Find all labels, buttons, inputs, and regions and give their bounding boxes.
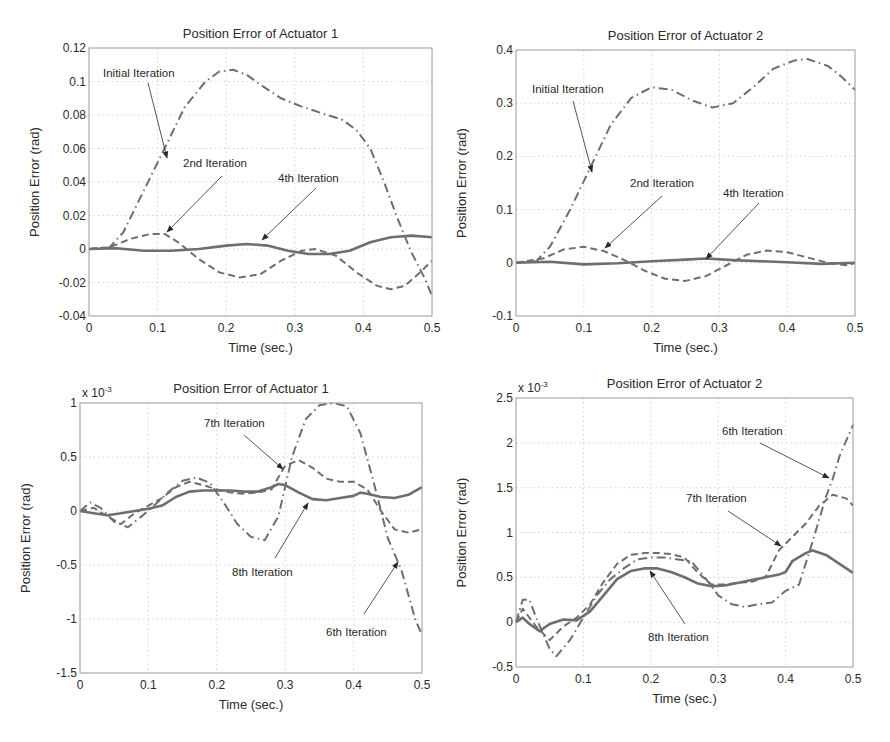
annotation-label: 2nd Iteration [183,157,247,169]
x-tick-label: 0 [513,321,520,335]
x-tick-label: 0 [513,672,520,686]
chart-title: Position Error of Actuator 2 [608,28,763,43]
annotations: Initial Iteration2nd Iteration4th Iterat… [532,83,784,259]
x-tick-label: 0.4 [779,321,796,335]
tick-labels: 00.10.20.30.40.5-0.04-0.0200.020.040.060… [59,41,441,335]
y-tick-label: 2 [506,436,513,450]
series-group [89,70,432,296]
chart-title: Position Error of Actuator 1 [183,26,338,41]
annotation-label: 6th Iteration [326,626,387,638]
series-line-6th-iteration [516,425,853,656]
annotations: Initial Iteration2nd Iteration4th Iterat… [103,67,339,240]
x-tick-label: 0.5 [414,678,431,692]
x-tick-label: 0.3 [711,321,728,335]
x-tick-label: 0.4 [345,678,362,692]
y-axis-label: Position Error (rad) [454,478,469,588]
x-tick-label: 0.4 [355,321,372,335]
x-tick-label: 0.3 [710,672,727,686]
y-axis-label: Position Error (rad) [27,127,42,237]
y-tick-label: 0.4 [496,43,513,57]
x-tick-label: 0.1 [140,678,157,692]
x-axis-label: Time (sec.) [219,697,284,712]
annotations: 7th Iteration8th Iteration6th Iteration [204,417,398,638]
chart-p1: Position Error of Actuator 1 Position Er… [27,26,441,355]
annotation-label: Initial Iteration [103,67,175,79]
y-tick-label: -0.02 [59,276,87,290]
x-tick-label: 0.1 [575,321,592,335]
annotation-label: 7th Iteration [204,417,265,429]
y-tick-label: 2.5 [496,391,513,405]
y-tick-label: 0.2 [496,149,513,163]
series-line-4th-iteration [516,259,855,265]
x-axis-label: Time (sec.) [228,340,293,355]
x-tick-label: 0.4 [777,672,794,686]
y-tick-label: 0 [79,242,86,256]
chart-p2: Position Error of Actuator 2 Position Er… [454,28,864,355]
annotation-arrow-icon [573,101,592,172]
annotation-arrow-icon [244,435,283,469]
y-axis-label: Position Error (rad) [18,483,33,593]
y-exponent-label: x 10-3 [518,380,548,395]
y-tick-label: 0.12 [63,41,87,55]
x-tick-label: 0.1 [149,321,166,335]
chart-p4: Position Error of Actuator 2 Position Er… [454,376,862,706]
y-tick-label: -1.5 [56,666,77,680]
series-line-8th-iteration [516,550,853,631]
x-tick-label: 0.3 [286,321,303,335]
series-group [516,425,853,656]
annotation-label: 2nd Iteration [630,177,694,189]
series-line-2nd-iteration [89,234,432,289]
annotation-arrow-icon [650,571,685,624]
y-tick-label: 0 [506,615,513,629]
y-tick-label: -1 [66,612,77,626]
y-tick-label: 1 [70,396,77,410]
tick-labels: 00.10.20.30.40.5-1.5-1-0.500.51 [56,396,430,692]
x-tick-label: 0.3 [277,678,294,692]
y-tick-label: 0.1 [69,75,86,89]
y-tick-label: 0.5 [60,450,77,464]
x-tick-label: 0 [86,321,93,335]
annotation-arrow-icon [364,562,398,614]
annotation-arrow-icon [605,196,662,248]
y-tick-label: 0.3 [496,96,513,110]
x-tick-label: 0.2 [643,321,660,335]
y-tick-label: -0.04 [59,309,87,323]
chart-title: Position Error of Actuator 1 [173,381,328,396]
series-line-7th-iteration [516,495,853,640]
y-tick-label: -0.5 [492,660,513,674]
series-line-6th-iteration [80,403,422,635]
annotation-label: 7th Iteration [686,492,747,504]
y-tick-label: 0.08 [63,108,87,122]
annotation-label: 4th Iteration [278,172,339,184]
y-tick-label: 0.04 [63,175,87,189]
series-line-4th-iteration [89,236,432,254]
y-axis-label: Position Error (rad) [454,128,469,238]
y-tick-label: 0.06 [63,142,87,156]
figure-canvas: Position Error of Actuator 1 Position Er… [0,0,890,742]
annotation-arrow-icon [167,176,222,232]
annotation-arrow-icon [760,443,829,478]
x-axis-label: Time (sec.) [653,340,718,355]
chart-p3: Position Error of Actuator 1 Position Er… [18,381,431,712]
annotations: 6th Iteration7th Iteration8th Iteration [648,425,829,643]
y-tick-label: -0.5 [56,558,77,572]
x-tick-label: 0.5 [847,321,864,335]
chart-title: Position Error of Actuator 2 [607,376,762,391]
annotation-label: 8th Iteration [648,631,709,643]
x-tick-label: 0.5 [424,321,441,335]
annotation-label: 4th Iteration [723,187,784,199]
annotation-arrow-icon [706,203,759,259]
y-tick-label: 0 [506,256,513,270]
x-tick-label: 0.1 [575,672,592,686]
y-tick-label: 0.1 [496,203,513,217]
x-axis-label: Time (sec.) [652,691,717,706]
annotation-label: 6th Iteration [722,425,783,437]
y-tick-label: 1.5 [496,481,513,495]
y-tick-label: 0 [70,504,77,518]
annotation-arrow-icon [262,188,316,240]
y-tick-label: 0.02 [63,209,87,223]
annotation-label: 8th Iteration [232,566,293,578]
y-tick-label: -0.1 [492,309,513,323]
annotation-arrow-icon [728,511,781,546]
y-exponent-label: x 10-3 [82,385,112,400]
